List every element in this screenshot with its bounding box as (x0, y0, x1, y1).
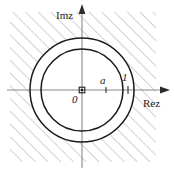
imaginary-axis-label: Imz (56, 10, 73, 21)
origin-label: 0 (72, 94, 78, 105)
outer-radius-label-one: 1 (122, 72, 128, 83)
figure-canvas (0, 0, 174, 174)
inner-radius-label-a: a (100, 75, 106, 86)
imaginary-axis-arrow (79, 4, 86, 14)
complex-plane-figure: Imz Rez 0 a 1 (0, 0, 174, 174)
real-axis-arrow (160, 87, 170, 94)
real-axis-label: Rez (143, 98, 160, 109)
